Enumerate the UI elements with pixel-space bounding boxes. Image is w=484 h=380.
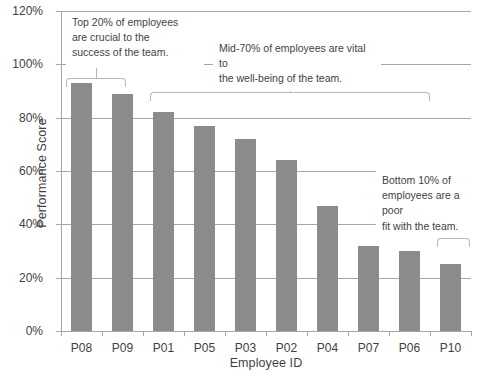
x-axis-tick: [348, 331, 349, 336]
bar: [317, 206, 338, 331]
x-axis-tick: [471, 331, 472, 336]
annotation-mid-70-line-1: Mid-70% of employees are vital to: [219, 41, 376, 71]
bar: [358, 246, 379, 331]
y-axis-tick-label: 20%: [0, 272, 43, 284]
x-axis-tick-label: P10: [421, 341, 481, 355]
bar: [440, 264, 461, 331]
annotation-bottom-10-line-3: fit with the team.: [382, 219, 477, 234]
bar: [399, 251, 420, 331]
y-axis-tick: [56, 224, 61, 225]
y-axis-tick-label: 120%: [0, 5, 43, 17]
annotation-top-20-line-1: Top 20% of employees: [72, 15, 199, 30]
bar: [235, 139, 256, 331]
x-axis-tick: [225, 331, 226, 336]
y-axis-tick-label: 60%: [0, 165, 43, 177]
bar: [194, 126, 215, 331]
annotation-top-20-line-3: success of the team.: [72, 45, 199, 60]
y-axis-tick-label: 40%: [0, 218, 43, 230]
bracket-mid-70: [150, 92, 430, 101]
annotation-top-20: Top 20% of employees are crucial to the …: [66, 12, 204, 65]
bracket-bottom-10: [437, 238, 470, 247]
y-axis-tick-label: 80%: [0, 112, 43, 124]
annotation-bottom-10: Bottom 10% of employees are a poor fit w…: [376, 170, 482, 238]
y-axis-tick: [56, 278, 61, 279]
y-axis-tick-label: 100%: [0, 58, 43, 70]
x-axis-tick: [102, 331, 103, 336]
bracket-top-20: [66, 78, 126, 87]
x-axis-tick: [184, 331, 185, 336]
y-axis-tick: [56, 171, 61, 172]
annotation-top-20-line-2: are crucial to the: [72, 30, 199, 45]
x-axis-tick: [389, 331, 390, 336]
annotation-bottom-10-line-2: employees are a poor: [382, 188, 477, 218]
x-axis-title: Employee ID: [60, 356, 472, 370]
x-axis-tick: [307, 331, 308, 336]
x-axis-tick: [266, 331, 267, 336]
bar: [71, 83, 92, 331]
bar: [153, 112, 174, 331]
annotation-mid-70-line-2: the well-being of the team.: [219, 71, 376, 86]
performance-score-bar-chart: Performance Score Employee ID 0%20%40%60…: [0, 0, 484, 380]
y-axis-tick: [56, 64, 61, 65]
x-axis-tick: [61, 331, 62, 336]
annotation-bottom-10-line-1: Bottom 10% of: [382, 173, 477, 188]
bar: [112, 94, 133, 331]
bar: [276, 160, 297, 331]
y-axis-tick: [56, 11, 61, 12]
y-axis-tick: [56, 118, 61, 119]
x-axis-tick: [430, 331, 431, 336]
annotation-mid-70: Mid-70% of employees are vital to the we…: [213, 38, 381, 91]
x-axis-tick: [143, 331, 144, 336]
y-axis-tick-label: 0%: [0, 325, 43, 337]
bracket-top-20-stem: [96, 68, 97, 79]
